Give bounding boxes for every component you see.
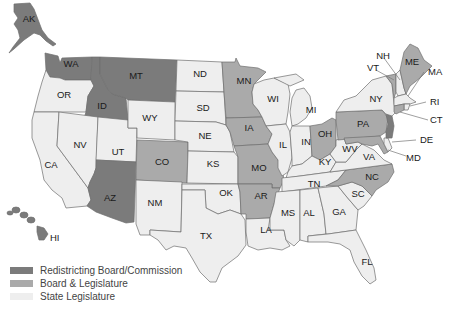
label-la: LA (260, 224, 272, 235)
label-ny: NY (369, 93, 383, 104)
legend-label-board-legislature: Board & Legislature (40, 277, 128, 290)
label-nm: NM (148, 197, 163, 208)
state-nj[interactable] (386, 114, 394, 138)
legend-item-legislature: State Legislature (10, 290, 182, 303)
label-ct: CT (430, 114, 443, 125)
label-al: AL (303, 207, 315, 218)
label-il: IL (279, 139, 287, 150)
state-hi[interactable] (7, 207, 48, 240)
legend: Redistricting Board/Commission Board & L… (10, 264, 182, 303)
label-mo: MO (251, 162, 266, 173)
label-me: ME (405, 56, 419, 67)
label-wy: WY (142, 112, 158, 123)
label-fl: FL (361, 256, 372, 267)
label-nc: NC (365, 171, 379, 182)
label-ut: UT (112, 146, 125, 157)
label-nv: NV (73, 139, 87, 150)
label-ok: OK (219, 187, 233, 198)
label-sd: SD (196, 102, 209, 113)
label-ne: NE (198, 130, 211, 141)
label-wi: WI (267, 93, 279, 104)
label-wv: WV (342, 143, 358, 154)
state-ak[interactable] (9, 3, 56, 53)
label-ak: AK (23, 13, 36, 24)
label-de: DE (420, 134, 433, 145)
label-mi: MI (306, 104, 317, 115)
label-sc: SC (351, 188, 364, 199)
label-ma: MA (428, 66, 443, 77)
label-ia: IA (245, 122, 255, 133)
label-wa: WA (64, 58, 80, 69)
label-md: MD (406, 152, 421, 163)
legend-swatch-legislature (10, 293, 33, 300)
label-ar: AR (254, 190, 267, 201)
label-id: ID (97, 100, 107, 111)
state-ri[interactable] (404, 104, 410, 110)
legend-item-commission: Redistricting Board/Commission (10, 264, 182, 277)
label-mt: MT (129, 70, 143, 81)
label-ky: KY (319, 156, 332, 167)
label-vt: VT (367, 62, 379, 73)
label-co: CO (155, 156, 169, 167)
label-in: IN (301, 136, 311, 147)
label-ks: KS (207, 158, 220, 169)
legend-label-legislature: State Legislature (40, 290, 115, 303)
label-mn: MN (237, 75, 252, 86)
label-tx: TX (200, 230, 213, 241)
label-ca: CA (44, 159, 58, 170)
label-ms: MS (281, 207, 295, 218)
label-va: VA (363, 151, 376, 162)
state-ny[interactable] (336, 76, 396, 116)
legend-swatch-commission (10, 267, 33, 274)
legend-label-commission: Redistricting Board/Commission (40, 264, 182, 277)
label-ga: GA (332, 206, 346, 217)
label-oh: OH (318, 128, 332, 139)
label-tn: TN (308, 178, 321, 189)
label-nh: NH (376, 50, 390, 61)
label-or: OR (57, 89, 71, 100)
label-ri: RI (430, 96, 440, 107)
label-az: AZ (104, 192, 116, 203)
label-nd: ND (193, 68, 207, 79)
label-pa: PA (357, 118, 370, 129)
legend-item-board-legislature: Board & Legislature (10, 277, 182, 290)
label-hi: HI (50, 232, 60, 243)
legend-swatch-board-legislature (10, 280, 33, 287)
